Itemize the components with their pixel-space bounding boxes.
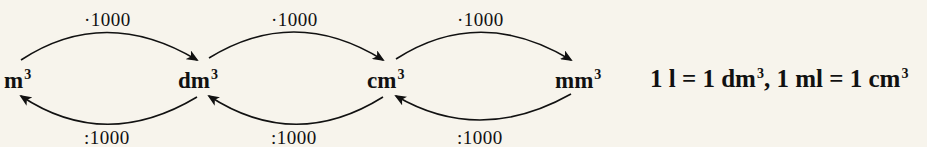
unit-base: m <box>4 68 23 93</box>
arrow-cm3-to-mm3 <box>396 32 571 60</box>
arrow-m3-to-dm3 <box>21 33 197 61</box>
equation-separator: , <box>764 65 777 92</box>
unit-cm3: cm3 <box>367 69 404 92</box>
factor-multiply-dm3-cm3: ·1000 <box>271 10 318 29</box>
unit-exponent: 3 <box>397 67 404 82</box>
unit-dm3: dm3 <box>178 69 218 92</box>
arrow-dm3-to-m3 <box>21 96 197 124</box>
arrow-dm3-to-cm3 <box>209 32 383 60</box>
unit-exponent: 3 <box>24 67 31 82</box>
unit-exponent: 3 <box>211 67 218 82</box>
equation-exponent: 3 <box>757 66 764 81</box>
unit-base: mm <box>555 68 593 93</box>
arrow-cm3-to-dm3 <box>209 96 383 124</box>
factor-multiply-m3-dm3: ·1000 <box>84 10 131 29</box>
factor-multiply-cm3-mm3: ·1000 <box>457 10 504 29</box>
unit-base: cm <box>367 68 396 93</box>
equation-exponent: 3 <box>901 66 908 81</box>
unit-m3: m3 <box>4 69 31 92</box>
factor-divide-mm3-cm3: :1000 <box>457 128 503 147</box>
equation-liter: 1 l = 1 dm <box>650 65 756 92</box>
liter-equivalence-equation: 1 l = 1 dm3, 1 ml = 1 cm3 <box>650 66 908 91</box>
arrow-mm3-to-cm3 <box>396 94 571 120</box>
equation-milliliter: 1 ml = 1 cm <box>776 65 900 92</box>
factor-divide-cm3-dm3: :1000 <box>271 128 317 147</box>
unit-mm3: mm3 <box>555 69 601 92</box>
unit-base: dm <box>178 68 210 93</box>
unit-exponent: 3 <box>594 67 601 82</box>
factor-divide-dm3-m3: :1000 <box>84 128 130 147</box>
